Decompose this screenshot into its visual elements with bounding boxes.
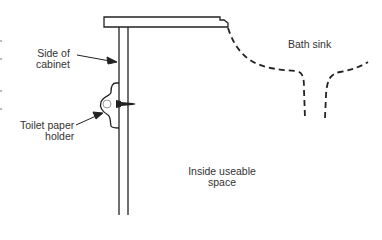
arrow-toilet-paper-holder	[76, 112, 103, 125]
label-toilet-paper-holder: Toilet paper holder	[20, 120, 74, 142]
cabinet-side	[119, 27, 128, 215]
cabinet-cross-section-diagram: Side of cabinet Toilet paper holder Bath…	[0, 0, 382, 240]
label-side-of-cabinet: Side of cabinet	[36, 48, 70, 70]
label-inside-useable-space: Inside useable space	[187, 166, 257, 188]
label-line: cabinet	[36, 59, 70, 70]
arrow-side-of-cabinet	[77, 55, 117, 64]
toilet-paper-roll-icon	[103, 100, 111, 108]
label-line: holder	[20, 131, 74, 142]
label-bath-sink: Bath sink	[288, 39, 331, 50]
countertop	[104, 17, 228, 27]
bath-sink-outline-right	[325, 62, 368, 118]
label-line: space	[187, 177, 257, 188]
cropped-left-edge-marks	[0, 40, 2, 110]
screw-icon	[116, 100, 136, 108]
